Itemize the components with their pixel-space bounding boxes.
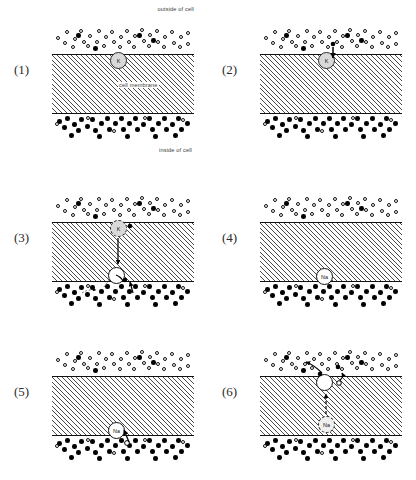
ion-filled [76, 33, 81, 38]
ion-open [394, 210, 398, 214]
ion-filled [76, 128, 81, 133]
ion-open [263, 290, 267, 294]
ion-open [387, 203, 391, 207]
ion-open [148, 33, 152, 37]
ion-open [142, 39, 146, 43]
ion-filled [137, 33, 142, 38]
ion-open [118, 45, 122, 49]
ion-open [273, 198, 277, 202]
arrow-overlay-3 [52, 176, 194, 321]
ion-open [125, 29, 129, 33]
ion-filled [301, 296, 306, 301]
ion-open [65, 30, 69, 34]
ion-open [112, 40, 116, 44]
ion-filled [156, 121, 161, 126]
ion-open [279, 213, 283, 217]
ion-open [102, 44, 106, 48]
ion-filled [384, 284, 389, 289]
ion-open [350, 207, 354, 211]
cell-diagram-5: Na [52, 330, 194, 475]
cell-diagram-4: Na [260, 176, 402, 321]
extracellular-region-4 [260, 184, 402, 222]
ion-filled [335, 289, 340, 294]
ion-open [305, 197, 309, 201]
inside-label-1: inside of cell [159, 147, 192, 153]
ion-open [112, 129, 116, 133]
ion-filled [151, 38, 156, 43]
ion-filled [85, 124, 90, 129]
ion-filled [113, 121, 118, 126]
panel-2: (2) K [208, 0, 416, 160]
ion-filled [119, 116, 124, 121]
ion-filled [93, 128, 98, 133]
ion-open [294, 212, 298, 216]
ion-open [172, 41, 176, 45]
ion-filled [327, 284, 332, 289]
ion-filled [313, 284, 318, 289]
ion-open [310, 212, 314, 216]
ion-filled [270, 293, 275, 298]
ion-filled [133, 116, 138, 121]
ion-filled [62, 125, 67, 130]
ion-filled [361, 302, 366, 307]
incoming-ion-2 [331, 42, 336, 47]
ion-filled [65, 116, 70, 121]
extracellular-region-1 [52, 16, 194, 54]
ion-filled [97, 134, 102, 139]
ion-filled [287, 285, 292, 290]
ion-filled [280, 290, 285, 295]
panel-label-4: (4) [222, 230, 237, 246]
panel-label-1: (1) [14, 62, 29, 78]
ion-filled [359, 206, 364, 211]
ion-open [371, 203, 375, 207]
ion-open [370, 213, 374, 217]
ion-filled [277, 301, 282, 306]
uptake-arrow-3 [130, 282, 133, 293]
ion-filled [141, 122, 146, 127]
ion-open [162, 45, 166, 49]
ion-filled [164, 127, 169, 132]
released-ion-3 [123, 278, 127, 282]
panel-label-6: (6) [222, 384, 237, 400]
cell-diagram-2: K [260, 8, 402, 153]
panel-3: (3) K [0, 168, 208, 328]
ion-filled [393, 289, 398, 294]
membrane-label-1: cell membrane [118, 82, 159, 88]
ion-filled [381, 301, 386, 306]
ion-filled [305, 302, 310, 307]
ion-filled [125, 134, 130, 139]
bound-ion-6 [337, 381, 342, 386]
ion-filled [341, 284, 346, 289]
ion-filled [343, 295, 348, 300]
ion-filled [179, 127, 184, 132]
ion-open [110, 30, 114, 34]
ion-filled [173, 133, 178, 138]
ion-filled [284, 296, 289, 301]
ion-filled [273, 284, 278, 289]
ion-filled [333, 302, 338, 307]
ion-filled [147, 116, 152, 121]
ion-filled [93, 46, 98, 51]
panel-5: (5) Na [0, 322, 208, 480]
ion-filled [315, 295, 320, 300]
exit-arrow-6 [306, 362, 322, 373]
ion-filled [185, 121, 190, 126]
cell-diagram-3: K [52, 176, 194, 321]
intracellular-region-4 [260, 281, 402, 315]
ion-open [147, 44, 151, 48]
ion-filled [345, 201, 350, 206]
ion-filled [372, 295, 377, 300]
ion-filled [307, 289, 312, 294]
ion-filled [170, 122, 175, 127]
sodium-transporter-4: Na [316, 268, 333, 285]
figure-root: (1) outside of cell cell membrane inside… [0, 0, 416, 480]
ion-filled [127, 121, 132, 126]
panel-label-2: (2) [222, 62, 237, 78]
ion-open [318, 198, 322, 202]
ion-filled [107, 127, 112, 132]
ion-open [312, 203, 316, 207]
ion-open [340, 213, 344, 217]
ion-open [56, 36, 60, 40]
ion-filled [364, 289, 369, 294]
ion-filled [298, 285, 303, 290]
